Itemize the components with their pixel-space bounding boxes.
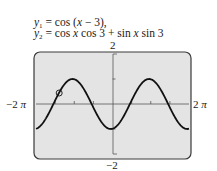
x-min-label: −2 π xyxy=(6,99,26,110)
y-max-label: 2 xyxy=(110,40,116,51)
x-max-label: 2 π xyxy=(193,99,207,110)
x-min-pi: π xyxy=(20,98,26,110)
x-max-coef: 2 xyxy=(193,98,199,110)
screen-frame xyxy=(34,52,191,159)
y-min-label: −2 xyxy=(106,160,118,171)
graphing-calculator-screen xyxy=(0,0,217,171)
x-min-coef: −2 xyxy=(6,98,18,110)
x-max-pi: π xyxy=(201,98,207,110)
